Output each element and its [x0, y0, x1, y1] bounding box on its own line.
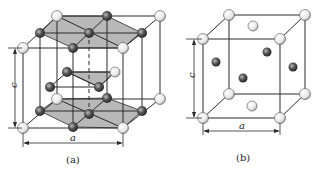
- light-atom: [224, 89, 235, 100]
- dark-atom: [94, 82, 104, 92]
- dimension-c-label: c: [186, 72, 197, 78]
- figure-a-hcp: c a (a): [8, 11, 166, 166]
- dark-atom: [84, 28, 94, 38]
- dark-atom: [102, 11, 112, 21]
- light-atom: [52, 94, 63, 105]
- light-atom: [300, 10, 311, 21]
- figure-b-fct: c a (b): [186, 10, 311, 164]
- light-atom: [118, 43, 129, 54]
- dark-atom-front-face: [239, 74, 248, 83]
- dark-atom: [62, 67, 72, 77]
- light-atom: [155, 94, 166, 105]
- middle-plane: [67, 72, 115, 87]
- light-atom: [275, 113, 286, 124]
- dark-atom: [35, 28, 45, 38]
- dimension-a-label: a: [239, 120, 245, 131]
- light-atom: [300, 89, 311, 100]
- dimension-a-a: a: [23, 132, 123, 147]
- light-atom: [275, 34, 286, 45]
- dimension-c-b: c: [186, 39, 202, 118]
- dimension-a-b: a: [203, 120, 280, 135]
- light-atom-top-face: [248, 21, 258, 31]
- dark-atom-left-face: [212, 58, 221, 67]
- crystal-structure-diagram: c a (a): [0, 0, 318, 171]
- dark-atom: [137, 106, 147, 116]
- dimension-a-label: a: [70, 132, 76, 143]
- dark-atom-back-face: [263, 48, 272, 57]
- caption-b: (b): [236, 152, 250, 163]
- light-atom: [110, 67, 120, 77]
- dark-atom: [137, 28, 147, 38]
- caption-a: (a): [66, 154, 80, 165]
- dark-atom: [102, 93, 112, 103]
- dark-atom: [68, 43, 78, 53]
- dark-atom: [84, 109, 94, 119]
- dark-atom: [45, 82, 55, 92]
- light-atom: [155, 11, 166, 22]
- light-atom: [224, 10, 235, 21]
- light-atom: [52, 11, 63, 22]
- dark-atom: [68, 122, 78, 132]
- light-atom-bottom-face: [247, 101, 257, 111]
- dark-atom-right-face: [289, 63, 298, 72]
- dimension-c-a: c: [8, 48, 22, 128]
- dimension-c-label: c: [8, 82, 19, 88]
- light-atom: [118, 123, 129, 134]
- dark-atom: [35, 106, 45, 116]
